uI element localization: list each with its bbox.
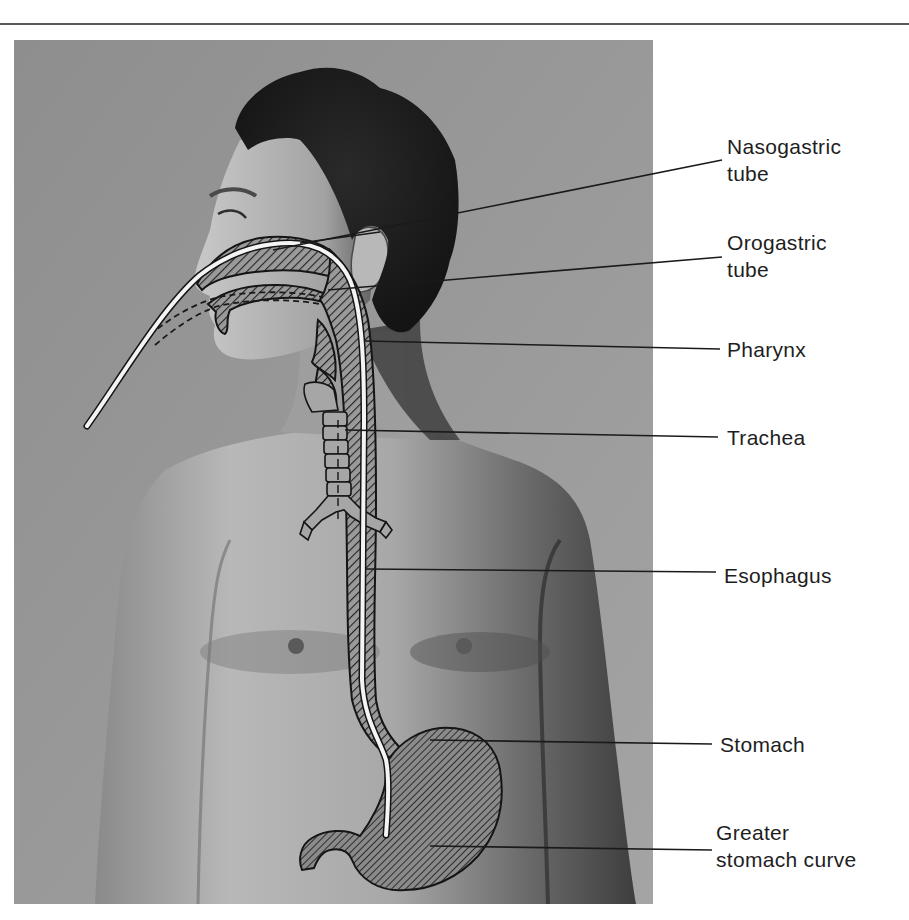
label-pharynx: Pharynx (727, 336, 806, 363)
label-orogastric-tube: Orogastric tube (727, 229, 827, 283)
label-greater-stomach-curve: Greater stomach curve (716, 819, 856, 873)
right-nipple (456, 638, 472, 654)
label-nasogastric-tube: Nasogastric tube (727, 133, 841, 187)
right-pectoral-shadow (410, 632, 550, 672)
label-stomach: Stomach (720, 731, 805, 758)
left-nipple (288, 638, 304, 654)
label-trachea: Trachea (727, 424, 805, 451)
label-esophagus: Esophagus (724, 562, 832, 589)
